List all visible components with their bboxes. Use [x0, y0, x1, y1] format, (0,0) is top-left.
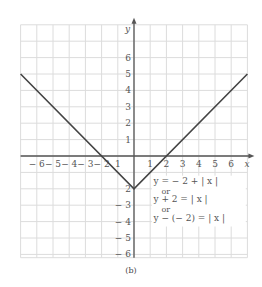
y-axis-label: y [124, 24, 131, 34]
x-tick-label: 2 [164, 159, 170, 169]
y-tick-label: − 3 [115, 200, 131, 210]
y-axis-arrow-icon [132, 18, 137, 24]
x-tick-label: 1 [147, 159, 153, 169]
y-tick-label: 1 [125, 135, 131, 145]
plot-area: − 6− 5− 4− 3− 211234566543212− 3− 4− 5− … [0, 0, 262, 287]
x-tick-label: 4 [196, 159, 202, 169]
equation-annotation: y = − 2 + | x | [152, 176, 218, 187]
x-tick-label: − 6 [29, 159, 45, 169]
y-tick-label: − 6 [115, 249, 131, 259]
x-axis-arrow-icon [248, 154, 254, 159]
x-tick-label: − 4 [61, 159, 77, 169]
y-tick-label: − 4 [115, 217, 131, 227]
x-tick-label: 6 [228, 159, 234, 169]
y-tick-label: − 5 [115, 233, 131, 243]
x-tick-label: 1 [115, 159, 121, 169]
absolute-value-graph: − 6− 5− 4− 3− 211234566543212− 3− 4− 5− … [0, 0, 262, 287]
y-tick-label: 2 [125, 118, 131, 128]
equation-annotation: y + 2 = | x | [152, 194, 207, 205]
x-axis-label: x [244, 159, 249, 169]
figure-caption: (b) [0, 266, 262, 275]
equation-annotation: y − (− 2) = | x | [152, 213, 225, 224]
x-tick-label: − 5 [45, 159, 61, 169]
y-tick-label: 6 [125, 53, 131, 63]
y-tick-label: 3 [125, 102, 131, 112]
x-tick-label: 3 [180, 159, 186, 169]
x-tick-label: − 2 [94, 159, 110, 169]
y-tick-label: 5 [125, 69, 131, 79]
x-tick-label: − 3 [77, 159, 93, 169]
y-tick-label: 4 [125, 85, 131, 95]
x-tick-label: 5 [212, 159, 218, 169]
